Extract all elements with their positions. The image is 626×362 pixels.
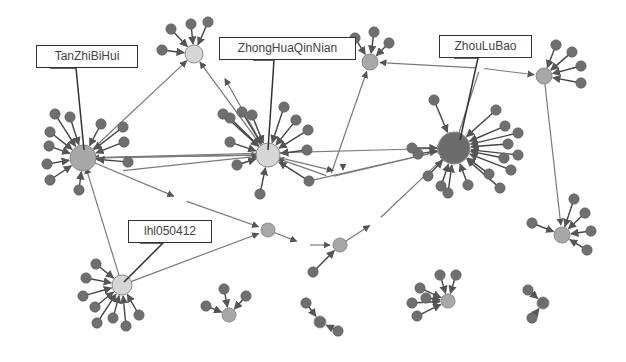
leaf-node[interactable] — [218, 109, 228, 119]
leaf-node[interactable] — [415, 283, 425, 293]
leaf-node[interactable] — [407, 143, 417, 153]
leaf-node[interactable] — [303, 125, 313, 135]
leaf-node[interactable] — [42, 159, 52, 169]
spoke-edge — [234, 299, 243, 309]
spoke-edge — [279, 162, 306, 179]
leaf-node[interactable] — [241, 291, 251, 301]
leaf-node[interactable] — [500, 121, 510, 131]
leaf-node[interactable] — [108, 313, 118, 323]
leaf-node[interactable] — [45, 127, 55, 137]
edge — [343, 225, 369, 242]
leaf-node[interactable] — [255, 189, 265, 199]
hub-node-tanzhibihui[interactable] — [70, 145, 96, 171]
leaf-node[interactable] — [78, 291, 88, 301]
leaf-node[interactable] — [247, 110, 257, 120]
leaf-node[interactable] — [291, 115, 301, 125]
hub-node-hub-bottom-left[interactable] — [222, 308, 236, 322]
leaf-node[interactable] — [582, 245, 592, 255]
spoke-edge — [276, 123, 293, 145]
leaf-node[interactable] — [569, 194, 579, 204]
hub-node-hub-bottom-chain[interactable] — [314, 316, 326, 328]
leaf-node[interactable] — [119, 137, 129, 147]
spoke-edge — [569, 216, 583, 229]
leaf-node[interactable] — [301, 298, 311, 308]
leaf-node[interactable] — [74, 185, 84, 195]
leaf-node[interactable] — [91, 259, 101, 269]
leaf-node[interactable] — [527, 313, 537, 323]
leaf-node[interactable] — [586, 226, 596, 236]
leaf-node[interactable] — [429, 95, 439, 105]
leaf-node[interactable] — [506, 165, 516, 175]
leaf-node[interactable] — [134, 310, 144, 320]
leaf-node[interactable] — [421, 293, 431, 303]
leaf-node[interactable] — [523, 285, 533, 295]
leaf-node[interactable] — [225, 137, 235, 147]
leaf-node[interactable] — [304, 176, 314, 186]
leaf-node[interactable] — [463, 180, 473, 190]
leaf-node[interactable] — [232, 160, 242, 170]
leaf-node[interactable] — [123, 157, 133, 167]
leaf-node[interactable] — [44, 141, 54, 151]
leaf-node[interactable] — [484, 169, 494, 179]
hub-node-hub-top-left[interactable] — [185, 45, 203, 63]
leaf-node[interactable] — [166, 24, 176, 34]
edge — [484, 68, 534, 74]
hub-node-hub-bottom-mid[interactable] — [441, 294, 455, 308]
leaf-node[interactable] — [576, 61, 586, 71]
hub-node-hub-bottom-right[interactable] — [537, 297, 549, 309]
hub-node-hub-top-mid[interactable] — [362, 54, 378, 70]
leaf-node[interactable] — [81, 273, 91, 283]
callout-pointer — [124, 243, 163, 282]
spoke-edge — [191, 28, 193, 44]
leaf-node[interactable] — [369, 27, 379, 37]
leaf-node[interactable] — [580, 208, 590, 218]
leaf-node[interactable] — [513, 150, 523, 160]
leaf-node[interactable] — [412, 311, 422, 321]
leaf-node[interactable] — [576, 78, 586, 88]
leaf-node[interactable] — [499, 153, 509, 163]
leaf-node[interactable] — [50, 109, 60, 119]
leaf-node[interactable] — [491, 105, 501, 115]
hub-node-hub-right-mid[interactable] — [554, 227, 570, 243]
leaf-node[interactable] — [90, 302, 100, 312]
leaf-node[interactable] — [423, 171, 433, 181]
leaf-node[interactable] — [186, 19, 196, 29]
leaf-node[interactable] — [551, 40, 561, 50]
leaf-node[interactable] — [219, 284, 229, 294]
leaf-node[interactable] — [96, 119, 106, 129]
hub-node-hub-mid-b[interactable] — [333, 238, 347, 252]
leaf-node[interactable] — [203, 17, 213, 27]
leaf-node[interactable] — [65, 112, 75, 122]
leaf-node[interactable] — [118, 122, 128, 132]
leaf-node[interactable] — [503, 139, 513, 149]
hub-node-hub-top-right[interactable] — [536, 68, 552, 84]
hub-node-zhoulubao[interactable] — [438, 132, 470, 164]
leaf-node[interactable] — [92, 318, 102, 328]
leaf-node[interactable] — [527, 218, 537, 228]
leaf-node[interactable] — [451, 270, 461, 280]
leaf-node[interactable] — [435, 270, 445, 280]
spoke-edge — [225, 293, 228, 307]
hub-node-hub-mid-a[interactable] — [261, 223, 275, 237]
leaf-node[interactable] — [567, 47, 577, 57]
label-tanzhibihui: TanZhiBiHui — [36, 45, 138, 68]
leaf-node[interactable] — [302, 145, 312, 155]
leaf-node[interactable] — [201, 301, 211, 311]
spoke-edge — [261, 168, 266, 190]
leaf-node[interactable] — [237, 107, 247, 117]
spoke-edge — [114, 296, 119, 315]
leaf-node[interactable] — [513, 128, 523, 138]
leaf-node[interactable] — [333, 326, 343, 336]
leaf-node[interactable] — [407, 298, 417, 308]
leaf-node[interactable] — [45, 175, 55, 185]
spoke-edge — [468, 158, 486, 171]
leaf-node[interactable] — [443, 188, 453, 198]
edge — [331, 71, 366, 173]
leaf-node[interactable] — [308, 267, 318, 277]
leaf-node[interactable] — [279, 102, 289, 112]
leaf-node[interactable] — [121, 321, 131, 331]
leaf-node[interactable] — [157, 45, 167, 55]
leaf-node[interactable] — [384, 38, 394, 48]
leaf-node[interactable] — [495, 183, 505, 193]
spoke-edge — [90, 128, 100, 146]
